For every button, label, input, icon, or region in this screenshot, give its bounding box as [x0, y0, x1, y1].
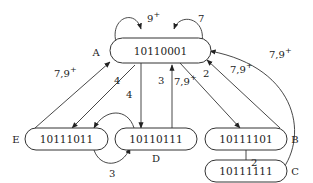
node-a-label: 10110001 — [134, 45, 187, 57]
edge-label-d-a: 7,9+ — [174, 73, 197, 87]
node-e: 10111011 E — [12, 128, 108, 150]
edge-label-a-e: 4 — [114, 75, 120, 86]
node-b: 10111101 B — [205, 128, 299, 150]
edge-label-b-c: 2 — [251, 157, 257, 168]
edge-label-e-d: 3 — [109, 168, 115, 179]
edge-label-a-a-7: 7 — [198, 13, 204, 24]
edge-label-a-b: 2 — [203, 68, 209, 79]
state-diagram: 10110001 A 10111011 E 10110111 D 1011110… — [0, 0, 313, 183]
edge-label-c-a: 7,9+ — [269, 46, 292, 60]
node-a: 10110001 A — [91, 38, 211, 63]
node-d-name: D — [152, 153, 160, 164]
node-e-name: E — [12, 134, 19, 145]
node-e-label: 10111011 — [40, 133, 93, 145]
edge-label-a-d: 3 — [158, 75, 164, 86]
node-d-label: 10110111 — [129, 133, 182, 145]
edge-labels: 9+ 7 7,9+ 4 4 3 3 7,9+ 2 7,9+ 2 7,9+ — [54, 10, 292, 179]
edge-label-a-a-9: 9+ — [147, 10, 160, 24]
edge-label-d-e: 4 — [126, 89, 132, 100]
edge-d-e — [94, 113, 134, 128]
node-c-label: 10111111 — [219, 165, 272, 177]
node-d: 10110111 D — [115, 128, 197, 164]
node-b-label: 10111101 — [219, 133, 272, 145]
node-a-name: A — [91, 47, 100, 58]
node-b-name: B — [291, 134, 298, 145]
edge-label-b-a: 7,9+ — [230, 61, 253, 75]
node-c-name: C — [291, 166, 299, 177]
edge-label-e-a: 7,9+ — [54, 65, 77, 79]
